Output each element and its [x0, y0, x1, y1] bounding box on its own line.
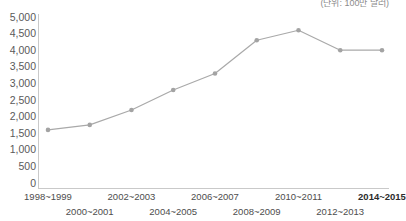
y-tick-label: 1,500 — [0, 128, 36, 139]
y-tick-label: 0 — [0, 178, 36, 189]
x-tick-label: 2010~2011 — [275, 191, 322, 202]
y-tick-label: 4,500 — [0, 28, 36, 39]
x-tick-label: 2000~2001 — [66, 206, 114, 217]
x-axis: 1998~19992000~20012002~20032004~20052006… — [0, 189, 391, 221]
data-point-marker[interactable]: 2010~2011: 4600 — [296, 28, 301, 33]
x-tick-label: 1998~1999 — [24, 191, 72, 202]
y-tick-label: 3,000 — [0, 78, 36, 89]
y-tick-label: 4,000 — [0, 45, 36, 56]
x-tick-label: 2006~2007 — [191, 191, 239, 202]
data-point-marker[interactable]: 2008~2009: 4300 — [254, 38, 259, 43]
y-tick-label: 5,000 — [0, 12, 36, 23]
y-axis: 5,0004,5004,0003,5003,0002,5002,0001,500… — [0, 0, 36, 221]
chart-unit-note: (단위: 100만 달러) — [320, 0, 389, 9]
y-tick-label: 2,000 — [0, 111, 36, 122]
y-tick-label: 1,000 — [0, 144, 36, 155]
x-tick-label: 2012~2013 — [316, 206, 364, 217]
data-point-marker[interactable]: 1998~1999: 1600 — [46, 128, 51, 133]
data-point-marker[interactable]: 2012~2013: 4000 — [338, 48, 343, 53]
data-point-marker[interactable]: 2004~2005: 2800 — [171, 88, 176, 93]
y-tick-label: 2,500 — [0, 95, 36, 106]
x-tick-label: 2004~2005 — [149, 206, 197, 217]
plot-area: 1998~1999: 16002000~2001: 17502002~2003:… — [38, 12, 390, 188]
data-point-marker[interactable]: 2006~2007: 3300 — [213, 71, 218, 76]
x-tick-label: 2002~2003 — [108, 191, 156, 202]
data-point-marker[interactable]: 2002~2003: 2200 — [129, 108, 134, 113]
chart-series-svg: 1998~1999: 16002000~2001: 17502002~2003:… — [38, 12, 390, 188]
y-tick-label: 500 — [0, 161, 36, 172]
series-line — [48, 30, 382, 130]
x-tick-label: 2014~2015 — [358, 191, 406, 202]
data-point-marker[interactable]: 2014~2015: 4000 — [380, 48, 385, 53]
y-tick-label: 3,500 — [0, 61, 36, 72]
x-tick-label: 2008~2009 — [233, 206, 281, 217]
data-point-marker[interactable]: 2000~2001: 1750 — [87, 123, 92, 128]
